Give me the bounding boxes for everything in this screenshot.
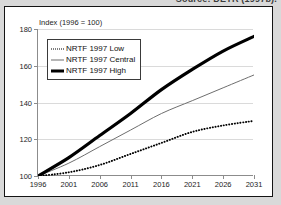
x-tick-label: 2026 [215,180,232,189]
x-tick-label: 2006 [91,180,108,189]
legend-label-low: NRTF 1997 Low [66,44,124,53]
legend-item-high: NRTF 1997 High [51,65,135,76]
legend-item-central: NRTF 1997 Central [51,54,135,65]
legend-swatch-central-icon [51,55,64,64]
x-tick-label: 2031 [246,180,263,189]
x-tick-label: 2001 [61,180,78,189]
y-tick-label: 160 [19,61,32,70]
series-line-nrtf-1997-low [38,121,254,176]
legend-label-central: NRTF 1997 Central [66,55,135,64]
chart-legend: NRTF 1997 Low NRTF 1997 Central NRTF 199… [47,39,141,80]
y-tick-label: 120 [19,135,32,144]
legend-label-high: NRTF 1997 High [66,66,126,75]
x-tick-label: 1996 [30,180,47,189]
figure-page: Source: DETR (1997b). Index (1996 = 100)… [0,0,281,205]
source-caption: Source: DETR (1997b). [176,0,277,4]
axis-title: Index (1996 = 100) [39,18,102,27]
y-tick-label: 180 [19,25,32,34]
figure-frame: Index (1996 = 100) 100120140160180 19962… [4,6,273,197]
x-tick [254,175,255,179]
x-tick-label: 2021 [184,180,201,189]
legend-swatch-high-icon [51,66,64,75]
legend-item-low: NRTF 1997 Low [51,43,135,54]
x-tick-label: 2011 [122,180,138,189]
y-tick-label: 140 [19,98,32,107]
legend-swatch-low-icon [51,44,64,53]
x-tick-label: 2016 [153,180,170,189]
